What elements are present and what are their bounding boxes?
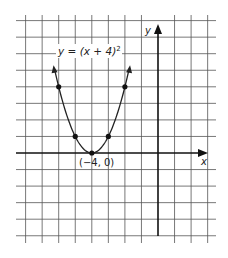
data-point (73, 134, 78, 139)
curve-right-arrow-icon (126, 65, 132, 73)
vertex-label: (−4, 0) (79, 157, 114, 168)
y-axis-label: y (144, 25, 152, 36)
parabola-chart: y = (x + 4)2 (−4, 0) y x (0, 0, 228, 258)
equation-label: y = (x + 4)2 (57, 45, 121, 57)
x-axis-label: x (200, 156, 207, 167)
data-point (89, 150, 94, 155)
data-point (56, 84, 61, 89)
y-axis-arrow-icon (154, 24, 162, 34)
curve-left-arrow-icon (52, 65, 58, 73)
labels: y = (x + 4)2 (−4, 0) y x (56, 25, 207, 168)
data-point (106, 134, 111, 139)
data-point (122, 84, 127, 89)
